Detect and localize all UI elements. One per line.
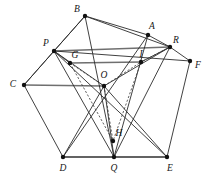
dashed-edge-layer	[54, 47, 170, 141]
edge-c-p	[24, 51, 54, 85]
vertex-point-h	[111, 139, 115, 143]
vertex-point-e	[165, 155, 169, 159]
vertex-point-q	[112, 155, 116, 159]
edge-o-e	[104, 86, 167, 157]
edge-o-d	[63, 86, 104, 157]
edge-b-a	[85, 16, 148, 35]
vertex-point-a	[146, 33, 150, 37]
edge-b-r	[85, 16, 170, 47]
vertex-label-c: C	[10, 79, 17, 89]
edge-g-i	[70, 62, 141, 63]
edge-p-b	[54, 16, 85, 51]
vertex-label-p: P	[42, 38, 49, 48]
vertex-point-o	[102, 84, 106, 88]
edge-o-q	[104, 86, 114, 157]
edge-c-o	[24, 85, 104, 86]
edge-r-f	[170, 47, 190, 61]
vertex-point-b	[83, 14, 87, 18]
solid-edge-layer	[24, 16, 190, 157]
vertex-label-b: B	[74, 4, 80, 14]
edge-f-e	[167, 61, 190, 157]
vertex-point-i	[139, 60, 143, 64]
geometry-figure-canvas: BARFPGIOCHDQE	[0, 0, 211, 183]
edge-a-r	[148, 35, 170, 47]
vertex-label-g: G	[72, 50, 79, 60]
vertex-point-d	[61, 155, 65, 159]
vertex-point-f	[188, 59, 192, 63]
vertex-label-e: E	[166, 163, 173, 173]
geometry-diagram: BARFPGIOCHDQE	[0, 0, 211, 183]
edge-p-q	[54, 51, 114, 157]
vertex-label-f: F	[194, 60, 201, 70]
vertex-point-c	[22, 83, 26, 87]
vertex-label-a: A	[148, 21, 155, 31]
vertex-point-p	[52, 49, 56, 53]
vertex-label-q: Q	[111, 163, 118, 173]
edge-a-q	[114, 35, 148, 157]
edge-d-c	[24, 85, 63, 157]
vertex-label-r: R	[172, 35, 179, 45]
thick-edge-layer	[24, 47, 170, 157]
vertex-label-d: D	[59, 163, 67, 173]
vertex-label-o: O	[101, 70, 108, 80]
vertex-point-r	[168, 45, 172, 49]
vertex-point-g	[68, 61, 72, 65]
vertex-dot-layer	[22, 14, 192, 159]
vertex-label-h: H	[115, 128, 124, 138]
vertex-label-layer: BARFPGIOCHDQE	[10, 4, 201, 173]
